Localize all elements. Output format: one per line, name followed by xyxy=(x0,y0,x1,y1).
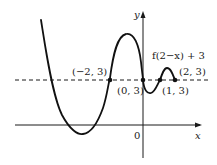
point-label-2-3: (2, 3) xyxy=(179,66,206,77)
point-label-neg2-3: (−2, 3) xyxy=(72,66,107,77)
point-1-3 xyxy=(158,78,163,83)
origin-label: 0 xyxy=(134,130,140,141)
point-label-0-3: (0, 3) xyxy=(117,85,144,96)
curve-f-2-minus-x-plus-3 xyxy=(41,20,175,134)
point-0-3 xyxy=(141,78,146,83)
point-2-3 xyxy=(173,78,178,83)
curve-label: f(2−x) + 3 xyxy=(152,50,205,61)
x-axis-label: x xyxy=(195,130,201,141)
y-axis-label: y xyxy=(133,9,140,20)
point-label-1-3: (1, 3) xyxy=(162,85,189,96)
point-neg2-3 xyxy=(108,78,113,83)
x-axis-arrow-icon xyxy=(195,123,202,128)
y-axis-arrow-icon xyxy=(141,11,146,18)
graph: y x 0 f(2−x) + 3 (−2, 3) (0, 3) (1, 3) (… xyxy=(0,0,217,165)
